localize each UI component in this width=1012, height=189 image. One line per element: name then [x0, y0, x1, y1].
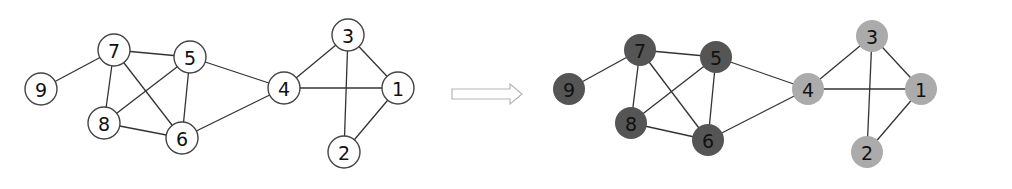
input-graph: 975864312: [25, 19, 414, 168]
node-label: 5: [710, 47, 722, 69]
graph-node-4: 4: [792, 73, 824, 105]
graph-edge: [640, 50, 708, 140]
graph-node-8: 8: [88, 107, 120, 139]
node-label: 5: [184, 47, 196, 69]
input-graph-nodes: 975864312: [25, 19, 414, 168]
node-label: 6: [702, 130, 714, 152]
colored-graph-nodes: 975864312: [553, 20, 937, 168]
node-label: 2: [861, 142, 873, 164]
node-label: 8: [625, 113, 637, 135]
node-label: 9: [563, 79, 575, 101]
node-label: 1: [392, 78, 404, 100]
graph-node-5: 5: [174, 41, 206, 73]
community-colored-graph: 975864312: [553, 20, 937, 168]
arrow-shape: [452, 84, 522, 104]
graph-node-1: 1: [382, 72, 414, 104]
graph-node-9: 9: [553, 73, 585, 105]
graph-node-3: 3: [332, 19, 364, 51]
node-label: 7: [108, 40, 120, 62]
node-label: 2: [338, 142, 350, 164]
node-label: 3: [342, 25, 354, 47]
graph-node-7: 7: [98, 34, 130, 66]
graph-node-1: 1: [905, 73, 937, 105]
node-label: 8: [98, 113, 110, 135]
graph-node-5: 5: [700, 41, 732, 73]
node-label: 3: [866, 26, 878, 48]
node-label: 4: [278, 78, 290, 100]
graph-edge: [182, 88, 284, 138]
graph-node-7: 7: [624, 34, 656, 66]
node-label: 1: [915, 79, 927, 101]
graph-edge: [867, 36, 872, 152]
graph-edge: [708, 89, 808, 140]
graph-node-6: 6: [692, 124, 724, 156]
graph-node-6: 6: [166, 122, 198, 154]
graph-node-3: 3: [856, 20, 888, 52]
transform-arrow-icon: [452, 84, 522, 104]
node-label: 9: [35, 79, 47, 101]
node-label: 7: [634, 40, 646, 62]
graph-node-8: 8: [615, 107, 647, 139]
graph-node-2: 2: [851, 136, 883, 168]
graph-diagram: 975864312 975864312: [0, 0, 1012, 189]
node-label: 4: [802, 79, 814, 101]
graph-node-9: 9: [25, 73, 57, 105]
graph-edge: [344, 35, 348, 152]
node-label: 6: [176, 128, 188, 150]
graph-edge: [631, 57, 716, 123]
graph-node-2: 2: [328, 136, 360, 168]
graph-node-4: 4: [268, 72, 300, 104]
